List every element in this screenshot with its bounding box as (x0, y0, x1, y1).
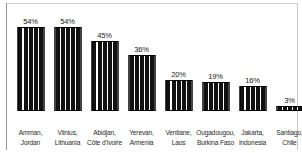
bar[interactable] (239, 86, 266, 111)
bar-value-label: 36% (134, 45, 149, 54)
left-axis-rule (6, 3, 7, 150)
bar[interactable] (276, 106, 302, 111)
bar-slot: 54% (12, 8, 49, 111)
bar[interactable] (91, 41, 118, 111)
top-rule (6, 3, 298, 4)
bar-column: 3%Santiago,Chile (271, 5, 302, 151)
bar[interactable] (165, 80, 192, 111)
bar-slot: 36% (123, 8, 160, 111)
bar-group: 36% (128, 45, 155, 111)
bar-column: 20%Ventiane,Laos (160, 5, 197, 151)
bar-slot: 16% (234, 8, 271, 111)
category-label-city: Santiago, (268, 128, 302, 138)
bar[interactable] (54, 27, 81, 111)
bar-value-label: 20% (171, 70, 186, 79)
bar-column: 54%Amman,Jordan (12, 5, 49, 151)
bar-group: 20% (165, 70, 192, 111)
bar-slot: 3% (271, 8, 302, 111)
bar-slot: 54% (49, 8, 86, 111)
bar-slot: 19% (197, 8, 234, 111)
bar-group: 16% (239, 76, 266, 111)
bar-value-label: 54% (60, 17, 75, 26)
bar-column: 45%Abidjan,Côte d'Ivoire (86, 5, 123, 151)
category-label-country: Chile (268, 138, 302, 148)
bar-value-label: 54% (23, 17, 38, 26)
bar-column: 54%Vilnius,Lithuania (49, 5, 86, 151)
bar-group: 19% (202, 72, 229, 111)
bar-column: 36%Yerevan,Armenia (123, 5, 160, 151)
bar-group: 54% (54, 17, 81, 111)
bar-chart: 54%Amman,Jordan54%Vilnius,Lithuania45%Ab… (0, 0, 302, 153)
bar-group: 45% (91, 31, 118, 111)
bar-value-label: 16% (245, 76, 260, 85)
bar-column: 16%Jakarta,Indonesia (234, 5, 271, 151)
bar-slot: 45% (86, 8, 123, 111)
bar[interactable] (128, 55, 155, 111)
bar-value-label: 45% (97, 31, 112, 40)
bar[interactable] (202, 82, 229, 111)
bar[interactable] (17, 27, 44, 111)
plot-area: 54%Amman,Jordan54%Vilnius,Lithuania45%Ab… (12, 5, 298, 151)
bar-value-label: 3% (284, 96, 295, 105)
bar-column: 19%Ougadougou,Burkina Faso (197, 5, 234, 151)
category-label: Santiago,Chile (268, 128, 302, 147)
bar-group: 3% (276, 96, 302, 111)
bar-slot: 20% (160, 8, 197, 111)
bar-group: 54% (17, 17, 44, 111)
bar-value-label: 19% (208, 72, 223, 81)
